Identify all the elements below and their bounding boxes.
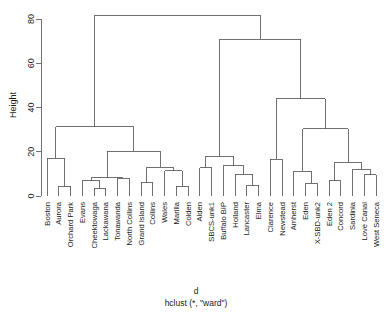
leaf-label: Sardinia	[348, 201, 357, 230]
leaf-label: Boston	[43, 202, 52, 226]
dendrogram-branches	[47, 15, 376, 196]
dendrogram-plot: 020406080 Height BostonAuroraOrchard Par…	[0, 0, 384, 321]
leaf-label: Newstead	[278, 202, 287, 236]
y-axis-title: Height	[8, 91, 18, 118]
y-axis	[36, 19, 41, 196]
leaf-label: Love Canal	[360, 202, 369, 241]
y-tick-labels: 020406080	[26, 14, 36, 199]
leaf-label: SBCS-unk1	[207, 202, 216, 242]
leaf-label: Buffalo BIP	[219, 202, 228, 240]
leaf-label: Aurora	[54, 201, 63, 225]
leaf-label: Collins	[148, 202, 157, 225]
leaf-label: Elma	[254, 201, 263, 219]
leaf-label: Eden	[301, 202, 310, 220]
leaf-label: North Collins	[125, 202, 134, 246]
y-tick-label: 20	[26, 147, 36, 157]
leaf-label: Lackawana	[101, 201, 110, 240]
y-tick-label: 60	[26, 58, 36, 68]
leaf-label: Wales	[160, 202, 169, 223]
y-tick-label: 80	[26, 14, 36, 24]
leaf-label: West Seneca	[372, 201, 381, 247]
y-tick-label: 40	[26, 102, 36, 112]
leaf-label: Tonawanda	[113, 201, 122, 241]
leaf-label: Holland	[231, 202, 240, 228]
leaf-label: X-SBD-unk2	[313, 202, 322, 244]
leaf-label: Orchard Park	[66, 202, 75, 247]
leaf-label: Clarence	[266, 202, 275, 232]
leaf-label: Grand Island	[137, 202, 146, 245]
main-title: d	[194, 286, 199, 296]
leaf-label: Evans	[78, 202, 87, 223]
leaf-label: Lancaster	[242, 202, 251, 236]
leaf-label: Marilla	[172, 201, 181, 224]
leaf-label: Cheektowaga	[90, 201, 99, 248]
leaf-label: Eden 2	[325, 202, 334, 226]
leaf-labels: BostonAuroraOrchard ParkEvansCheektowaga…	[43, 201, 381, 248]
dendrogram-canvas: 020406080 Height BostonAuroraOrchard Par…	[0, 0, 384, 321]
subtitle: hclust (*, "ward")	[165, 298, 228, 308]
leaf-label: Concord	[336, 202, 345, 231]
leaf-label: Amherst	[289, 201, 298, 230]
leaf-label: Alden	[195, 202, 204, 221]
y-tick-label: 0	[26, 193, 36, 198]
leaf-label: Colden	[184, 202, 193, 226]
